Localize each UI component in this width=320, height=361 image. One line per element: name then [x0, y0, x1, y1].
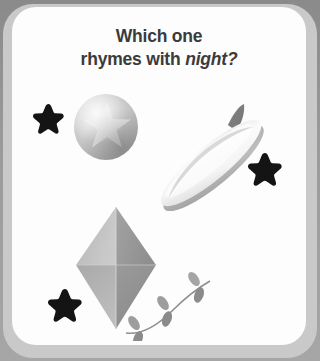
screen: Which one rhymes with night? — [0, 0, 320, 361]
question-card: Which one rhymes with night? — [12, 7, 306, 345]
star-icon-top-left — [33, 103, 64, 134]
star-icon-right — [248, 152, 282, 186]
question-line-2: rhymes with night? — [12, 48, 306, 71]
question-line-2-prefix: rhymes with — [81, 49, 186, 69]
answer-option-ball[interactable] — [74, 94, 138, 160]
star-icon-bottom-left — [48, 288, 82, 322]
question-emphasis-word: night? — [185, 49, 237, 69]
ball-shading — [74, 94, 138, 160]
kite-tail — [124, 263, 212, 341]
page-title: Which one rhymes with night? — [12, 25, 306, 71]
question-line-1: Which one — [12, 25, 306, 48]
